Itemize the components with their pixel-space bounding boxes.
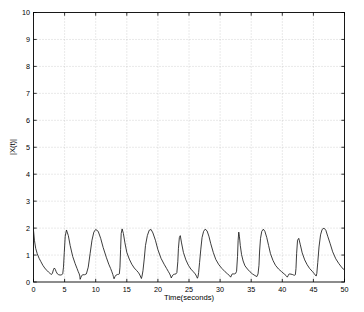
line-chart: 05101520253035404550 012345678910 Time(s… (0, 0, 364, 312)
y-tick-label: 9 (26, 35, 30, 44)
x-tick-label: 10 (92, 285, 100, 294)
y-tick-label: 3 (26, 197, 30, 206)
x-axis-label: Time(seconds) (164, 293, 214, 302)
y-tick-label: 6 (26, 116, 30, 125)
y-tick-label: 4 (26, 170, 30, 179)
figure-container: 05101520253035404550 012345678910 Time(s… (0, 0, 364, 312)
x-tick-label: 20 (154, 285, 162, 294)
y-tick-label: 1 (26, 251, 30, 260)
y-tick-label: 2 (26, 224, 30, 233)
y-tick-label: 8 (26, 62, 30, 71)
y-tick-label: 10 (22, 8, 30, 17)
y-tick-label: 0 (26, 278, 30, 287)
x-tick-label: 0 (32, 285, 36, 294)
x-tick-label: 15 (123, 285, 131, 294)
y-tick-label: 7 (26, 89, 30, 98)
y-axis-label: |X(t)| (8, 139, 17, 155)
x-tick-label: 40 (278, 285, 286, 294)
figure-background (0, 0, 364, 312)
x-tick-label: 35 (247, 285, 255, 294)
x-tick-label: 50 (341, 285, 349, 294)
y-tick-label: 5 (26, 143, 30, 152)
x-tick-label: 30 (216, 285, 224, 294)
x-tick-label: 5 (63, 285, 67, 294)
x-tick-label: 45 (309, 285, 317, 294)
